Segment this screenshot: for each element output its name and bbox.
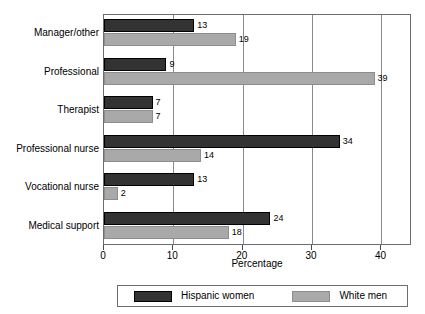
x-axis-title: Percentage [103,258,411,270]
legend-entry-white-men: White men [292,290,387,302]
bar-value-label: 13 [194,173,207,186]
category-label: Manager/other [0,27,99,38]
legend-swatch-hispanic-women [134,291,172,302]
bar [104,58,166,71]
bar-chart-figure: Manager/otherProfessionalTherapistProfes… [0,0,425,314]
bar [104,33,236,46]
bar [104,19,194,32]
bar-value-label: 39 [375,72,388,85]
bar-value-label: 7 [153,110,161,123]
legend-swatch-white-men [292,291,330,302]
bar [104,149,201,162]
bar [104,96,153,109]
legend-entry-hispanic-women: Hispanic women [134,290,254,302]
category-label: Therapist [0,104,99,115]
bar-group: 1319 [104,15,410,54]
bar [104,110,153,123]
legend-label-white-men: White men [339,290,387,302]
plot-area: 13199397734141322418 [103,14,411,245]
bar-value-label: 7 [153,96,161,109]
bar-value-label: 9 [166,58,174,71]
bar-group: 132 [104,169,410,208]
bar-value-label: 24 [270,212,283,225]
category-label: Medical support [0,220,99,231]
category-label: Vocational nurse [0,181,99,192]
bar [104,212,270,225]
bar-value-label: 18 [229,226,242,239]
chart-legend: Hispanic women White men [117,285,408,307]
bar-group: 2418 [104,208,410,247]
bar [104,187,118,200]
bar-group: 3414 [104,131,410,170]
bar [104,173,194,186]
bar [104,72,375,85]
bar-group: 939 [104,54,410,93]
bar [104,135,340,148]
bar-value-label: 13 [194,19,207,32]
bar-value-label: 2 [118,187,126,200]
legend-label-hispanic-women: Hispanic women [181,290,254,302]
bar-group: 77 [104,92,410,131]
bar [104,226,229,239]
bar-rows: 13199397734141322418 [104,15,410,244]
category-label: Professional nurse [0,143,99,154]
bar-value-label: 34 [340,135,353,148]
category-label: Professional [0,66,99,77]
category-axis-labels: Manager/otherProfessionalTherapistProfes… [0,14,99,245]
bar-value-label: 14 [201,149,214,162]
bar-value-label: 19 [236,33,249,46]
